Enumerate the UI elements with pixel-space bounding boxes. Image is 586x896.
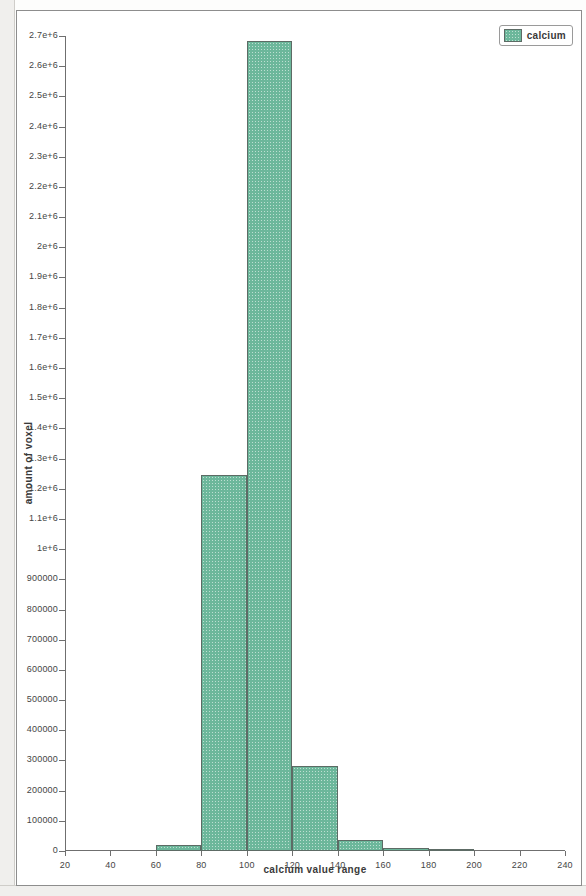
x-tick-mark	[520, 851, 521, 856]
y-tick-mark	[59, 519, 65, 520]
y-axis-title: amount of voxel	[23, 25, 37, 896]
y-tick-mark	[59, 730, 65, 731]
y-tick-mark	[59, 127, 65, 128]
y-tick-mark	[59, 157, 65, 158]
legend-swatch-calcium	[504, 29, 522, 42]
x-axis-title: calcium value range	[65, 864, 565, 875]
y-tick-mark	[59, 549, 65, 550]
y-tick-mark	[59, 217, 65, 218]
bar	[429, 849, 474, 851]
bar	[383, 848, 428, 851]
histogram-chart: 2.7e+62.6e+62.5e+62.4e+62.3e+62.2e+62.1e…	[17, 11, 583, 887]
y-tick-mark	[59, 187, 65, 188]
y-tick-mark	[59, 66, 65, 67]
x-tick-mark	[247, 851, 248, 856]
y-tick-mark	[59, 489, 65, 490]
y-tick-mark	[59, 610, 65, 611]
bar	[247, 41, 292, 851]
y-tick-label: 0	[53, 844, 58, 856]
chart-frame: 2.7e+62.6e+62.5e+62.4e+62.3e+62.2e+62.1e…	[16, 10, 582, 886]
y-axis-line	[65, 36, 66, 851]
x-tick-mark	[474, 851, 475, 856]
y-tick-mark	[59, 791, 65, 792]
y-tick-label: 2e+6	[37, 240, 58, 252]
x-tick-mark	[565, 851, 566, 856]
y-tick-mark	[59, 459, 65, 460]
legend-label-calcium: calcium	[527, 30, 566, 41]
x-tick-mark	[110, 851, 111, 856]
y-tick-mark	[59, 670, 65, 671]
y-tick-mark	[59, 96, 65, 97]
y-tick-label: 1e+6	[37, 542, 58, 554]
y-tick-mark	[59, 368, 65, 369]
y-tick-mark	[59, 700, 65, 701]
plot-area: 2.7e+62.6e+62.5e+62.4e+62.3e+62.2e+62.1e…	[65, 36, 565, 851]
y-tick-mark	[59, 398, 65, 399]
bar	[201, 475, 246, 851]
y-tick-mark	[59, 579, 65, 580]
y-tick-mark	[59, 821, 65, 822]
x-tick-mark	[429, 851, 430, 856]
y-tick-mark	[59, 338, 65, 339]
scanned-page: 2.7e+62.6e+62.5e+62.4e+62.3e+62.2e+62.1e…	[0, 0, 586, 896]
y-tick-mark	[59, 247, 65, 248]
x-tick-mark	[201, 851, 202, 856]
y-tick-mark	[59, 308, 65, 309]
page-edge-left	[0, 0, 15, 896]
bar	[338, 840, 383, 851]
x-tick-mark	[156, 851, 157, 856]
chart-legend: calcium	[499, 25, 573, 46]
bar	[156, 845, 201, 851]
y-tick-mark	[59, 760, 65, 761]
y-tick-mark	[59, 277, 65, 278]
y-tick-mark	[59, 428, 65, 429]
bar	[292, 766, 337, 851]
y-tick-mark	[59, 36, 65, 37]
x-tick-mark	[383, 851, 384, 856]
x-tick-mark	[338, 851, 339, 856]
y-tick-mark	[59, 640, 65, 641]
x-tick-mark	[292, 851, 293, 856]
x-tick-mark	[65, 851, 66, 856]
